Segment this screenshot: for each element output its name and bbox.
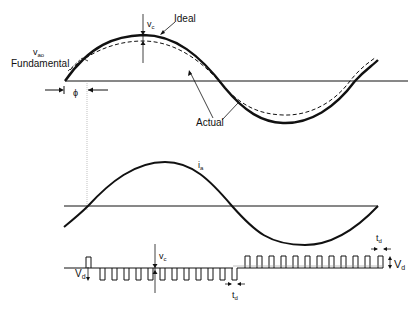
actual-leader-2 — [222, 103, 238, 120]
ideal-waveform — [65, 35, 378, 123]
label-vc-bottom: vc — [159, 251, 167, 262]
label-ideal: Ideal — [174, 13, 196, 24]
label-ia: ia — [198, 160, 204, 171]
label-vao: vao — [33, 47, 45, 58]
label-vd-right: Vd — [394, 258, 405, 271]
label-td-right: td — [376, 233, 382, 244]
actual-waveform — [70, 41, 376, 115]
actual-leader-1 — [190, 72, 213, 118]
current-waveform-ia — [64, 162, 378, 245]
label-fundamental: Fundamental — [11, 58, 69, 69]
label-vd-left: Vd — [75, 268, 86, 280]
inverter-waveform-diagram: Ideal Actual vc vao Fundamental ϕ ia — [0, 0, 418, 312]
label-vc-top: vc — [147, 19, 155, 30]
pulse-waveform — [64, 256, 383, 280]
label-actual: Actual — [196, 117, 224, 128]
phi-arrowhead-left — [59, 88, 64, 93]
phi-arrowhead-right — [88, 88, 93, 93]
label-phi: ϕ — [73, 88, 78, 98]
label-td-bottom: td — [232, 290, 238, 301]
